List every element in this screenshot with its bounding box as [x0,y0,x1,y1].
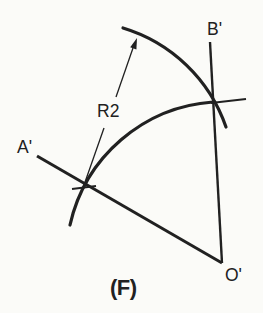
tick-b-intersection [211,99,246,103]
construction-figure: A' B' O' R2 (F) [0,0,263,313]
r2-arrowhead-icon [130,38,137,50]
ray-o-b [210,42,222,263]
label-point-b: B' [207,19,222,39]
r2-leader-line-lower [84,128,104,185]
label-point-o: O' [225,265,242,285]
label-radius-r2: R2 [97,101,119,121]
figure-caption: (F) [110,275,137,300]
angle-copy-diagram: A' B' O' R2 (F) [0,0,263,313]
r2-leader-line-upper [116,48,133,97]
label-point-a: A' [17,137,32,157]
ray-o-a [37,156,222,263]
